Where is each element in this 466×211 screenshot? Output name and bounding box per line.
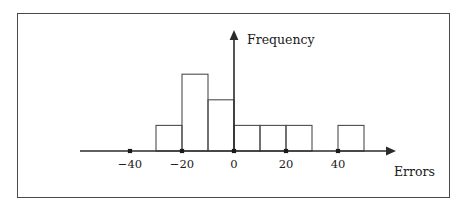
histogram-bar xyxy=(286,125,312,151)
x-tick-label: 0 xyxy=(230,157,237,171)
bars-group xyxy=(156,74,364,151)
x-tick-label: −20 xyxy=(170,157,194,171)
x-tick-dot xyxy=(180,149,184,153)
axes-group xyxy=(80,30,396,155)
histogram-bar xyxy=(156,125,182,151)
x-tick-dot xyxy=(232,149,236,153)
x-axis-label: Errors xyxy=(394,164,435,179)
x-axis-arrow-icon xyxy=(386,147,396,156)
y-axis-arrow-icon xyxy=(230,30,239,40)
y-axis-label: Frequency xyxy=(247,32,316,47)
figure-root: −40−2002040 Frequency Errors xyxy=(0,0,466,211)
x-axis-ticks: −40−2002040 xyxy=(118,149,345,171)
histogram-bar xyxy=(234,125,260,151)
histogram-bar xyxy=(260,125,286,151)
histogram-bar xyxy=(338,125,364,151)
histogram-bar xyxy=(208,100,234,151)
x-tick-dot xyxy=(284,149,288,153)
x-tick-label: 40 xyxy=(331,157,346,171)
x-tick-label: −40 xyxy=(118,157,142,171)
x-tick-label: 20 xyxy=(279,157,294,171)
histogram-chart: −40−2002040 Frequency Errors xyxy=(0,0,466,211)
x-tick-dot xyxy=(128,149,132,153)
x-tick-dot xyxy=(336,149,340,153)
histogram-bar xyxy=(182,74,208,151)
